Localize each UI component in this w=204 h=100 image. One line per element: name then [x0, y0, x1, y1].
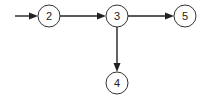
node-3: 3 — [106, 5, 128, 27]
edge-3-to-4 — [114, 27, 121, 72]
edge-2-to-3 — [60, 13, 106, 20]
node-label: 5 — [182, 10, 188, 22]
flow-graph: 2 3 5 4 — [0, 0, 204, 100]
node-2: 2 — [38, 5, 60, 27]
node-4: 4 — [106, 72, 128, 94]
edge-entry-to-2 — [15, 13, 38, 20]
edge-3-to-5 — [128, 13, 174, 20]
arrowhead-icon — [165, 13, 174, 20]
node-label: 4 — [114, 77, 120, 89]
node-label: 3 — [114, 10, 120, 22]
arrowhead-icon — [29, 13, 38, 20]
node-label: 2 — [46, 10, 52, 22]
arrowhead-icon — [97, 13, 106, 20]
node-5: 5 — [174, 5, 196, 27]
arrowhead-icon — [114, 63, 121, 72]
